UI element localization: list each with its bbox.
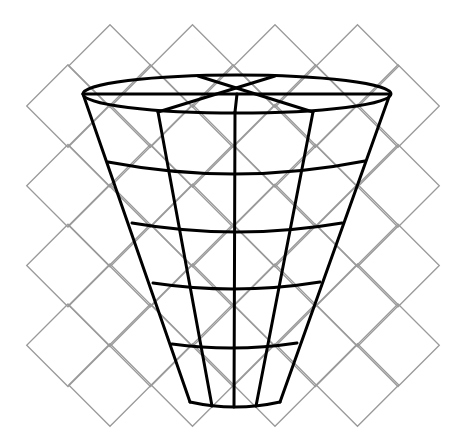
meridian-3 <box>234 112 235 407</box>
spoke-line <box>235 94 237 112</box>
frustum-on-grid-diagram <box>0 0 461 442</box>
